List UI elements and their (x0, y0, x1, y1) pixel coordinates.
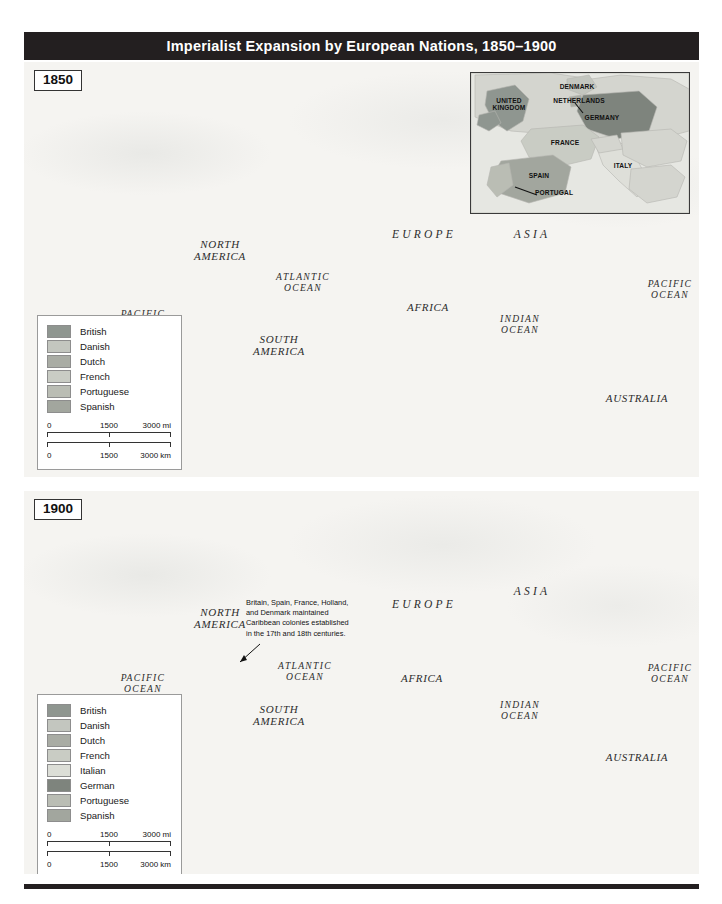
scale-tick-mi-0: 0 (47, 421, 51, 430)
scale-tick-labels-km: 015003000 km (47, 451, 171, 461)
scale-tick-labels-mi: 015003000 mi (47, 421, 171, 431)
scale-tick-km-0: 0 (47, 860, 51, 869)
legend-swatch-italian (47, 764, 71, 777)
inset-label-germany: GERMANY (585, 114, 620, 121)
year-label-1900: 1900 (34, 499, 82, 520)
scale-tick-km-2: 3000 km (140, 860, 171, 869)
scale-tick-labels-km: 015003000 km (47, 860, 171, 870)
legend-item-dutch: Dutch (47, 355, 171, 369)
annotation-leader-arrow (230, 642, 270, 672)
europe-inset-map (471, 73, 689, 213)
inset-label-united-kingdom: UNITED KINGDOM (493, 97, 526, 112)
legend-swatch-french (47, 370, 71, 383)
europe-detail-inset: UNITED KINGDOMDENMARKNETHERLANDSGERMANYF… (470, 72, 690, 214)
legend-swatch-british (47, 704, 71, 717)
map-panel-1900: NORTH AMERICASOUTH AMERICAEUROPEASIAAFRI… (24, 491, 699, 874)
year-label-1850: 1850 (34, 70, 82, 91)
legend-label-german: German (80, 780, 115, 791)
legend-label-danish: Danish (80, 341, 110, 352)
legend-item-french: French (47, 749, 171, 763)
scale-bar-group: 015003000 mi015003000 km (47, 421, 171, 461)
legend-item-italian: Italian (47, 764, 171, 778)
legend-item-spanish: Spanish (47, 809, 171, 823)
legend-item-dutch: Dutch (47, 734, 171, 748)
map-legend: BritishDanishDutchFrenchItalianGermanPor… (37, 694, 182, 874)
legend-label-british: British (80, 326, 107, 337)
legend-item-british: British (47, 325, 171, 339)
inset-label-netherlands: NETHERLANDS (553, 97, 604, 104)
legend-item-british: British (47, 704, 171, 718)
figure-title: Imperialist Expansion by European Nation… (167, 38, 557, 54)
scale-bar-km (47, 442, 171, 451)
scale-tick-mi-0: 0 (47, 830, 51, 839)
legend-swatch-spanish (47, 400, 71, 413)
legend-label-spanish: Spanish (80, 810, 115, 821)
legend-swatch-danish (47, 719, 71, 732)
legend-label-italian: Italian (80, 765, 106, 776)
legend-label-french: French (80, 750, 110, 761)
legend-label-french: French (80, 371, 110, 382)
scale-tick-km-1: 1500 (100, 860, 118, 869)
inset-label-denmark: DENMARK (560, 83, 595, 90)
scale-tick-km-0: 0 (47, 451, 51, 460)
scale-bar-mi (47, 841, 171, 850)
scale-tick-labels-mi: 015003000 mi (47, 830, 171, 840)
legend-label-danish: Danish (80, 720, 110, 731)
map-legend: BritishDanishDutchFrenchPortugueseSpanis… (37, 315, 182, 470)
scale-bar-km (47, 851, 171, 860)
inset-label-france: FRANCE (551, 139, 579, 146)
legend-label-british: British (80, 705, 107, 716)
legend-item-portuguese: Portuguese (47, 385, 171, 399)
footer-rule (24, 884, 699, 889)
legend-swatch-spanish (47, 809, 71, 822)
scale-tick-mi-1: 1500 (100, 830, 118, 839)
scale-tick-mi-1: 1500 (100, 421, 118, 430)
legend-swatch-danish (47, 340, 71, 353)
inset-label-italy: ITALY (614, 162, 633, 169)
legend-label-portuguese: Portuguese (80, 795, 129, 806)
scale-tick-mi-2: 3000 mi (143, 830, 171, 839)
legend-swatch-dutch (47, 734, 71, 747)
scale-tick-mi-2: 3000 mi (143, 421, 171, 430)
caribbean-colonies-annotation: Britain, Spain, France, Holland, and Den… (246, 598, 350, 639)
legend-swatch-portuguese (47, 385, 71, 398)
legend-item-danish: Danish (47, 340, 171, 354)
legend-label-portuguese: Portuguese (80, 386, 129, 397)
legend-swatch-british (47, 325, 71, 338)
legend-label-dutch: Dutch (80, 735, 105, 746)
legend-label-spanish: Spanish (80, 401, 115, 412)
scale-tick-km-2: 3000 km (140, 451, 171, 460)
legend-label-dutch: Dutch (80, 356, 105, 367)
legend-item-portuguese: Portuguese (47, 794, 171, 808)
legend-swatch-german (47, 779, 71, 792)
scale-bar-group: 015003000 mi015003000 km (47, 830, 171, 870)
legend-swatch-dutch (47, 355, 71, 368)
legend-item-french: French (47, 370, 171, 384)
scale-bar-mi (47, 432, 171, 441)
imperialist-expansion-map-figure: Imperialist Expansion by European Nation… (0, 0, 722, 904)
legend-item-spanish: Spanish (47, 400, 171, 414)
legend-item-german: German (47, 779, 171, 793)
legend-item-danish: Danish (47, 719, 171, 733)
inset-label-portugal: PORTUGAL (535, 189, 573, 196)
legend-swatch-french (47, 749, 71, 762)
inset-label-spain: SPAIN (529, 172, 549, 179)
map-panel-1850: NORTH AMERICASOUTH AMERICAEUROPEASIAAFRI… (24, 62, 699, 477)
figure-title-bar: Imperialist Expansion by European Nation… (24, 32, 699, 60)
legend-swatch-portuguese (47, 794, 71, 807)
scale-tick-km-1: 1500 (100, 451, 118, 460)
